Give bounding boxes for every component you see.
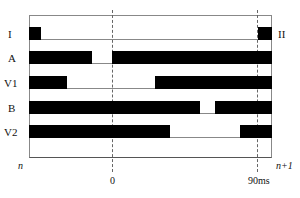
lane-v1 xyxy=(29,76,272,89)
active-bar xyxy=(29,101,200,114)
lane-baseline xyxy=(29,39,272,40)
tick-zero: 0 xyxy=(110,175,115,186)
lane-label-a: A xyxy=(8,52,16,64)
active-bar xyxy=(29,51,92,64)
lane-label-ii: II xyxy=(278,28,285,40)
lane-label-i: I xyxy=(8,28,12,40)
active-bar xyxy=(215,101,272,114)
cycle-start-label: n xyxy=(18,160,23,172)
lane-v2 xyxy=(29,125,272,138)
lane-b xyxy=(29,101,272,114)
lane-label-b: B xyxy=(8,102,15,114)
lane-i xyxy=(29,27,272,40)
active-bar xyxy=(29,27,41,40)
active-bar xyxy=(29,125,170,138)
active-bar xyxy=(112,51,272,64)
lane-label-v2: V2 xyxy=(4,126,17,138)
active-bar xyxy=(155,76,272,89)
lane-a xyxy=(29,51,272,64)
cycle-end-label: n+1 xyxy=(276,160,293,172)
active-bar xyxy=(240,125,272,138)
active-bar xyxy=(258,27,272,40)
lane-label-v1: V1 xyxy=(4,77,17,89)
tick-90ms: 90ms xyxy=(248,175,270,186)
active-bar xyxy=(29,76,67,89)
